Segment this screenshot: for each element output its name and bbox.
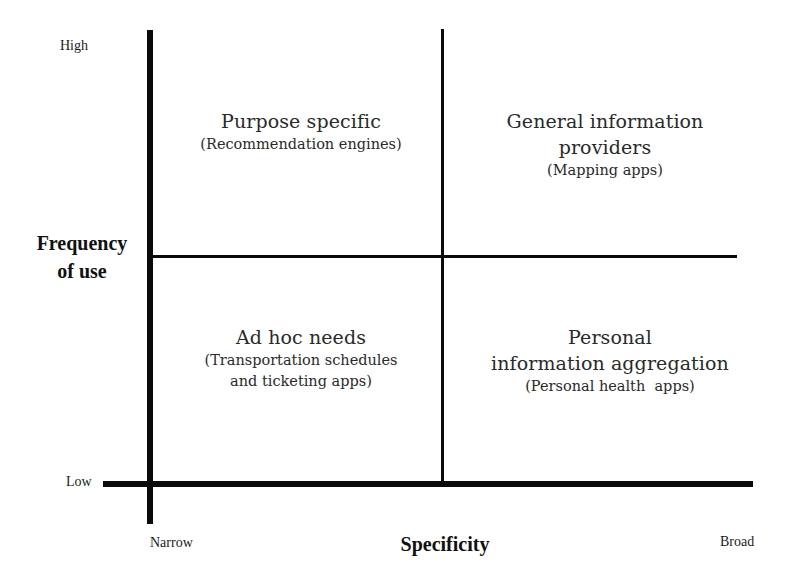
y-axis-title-line1: Frequency: [22, 229, 142, 257]
quadrant-top-right-example: (Mapping apps): [460, 160, 750, 181]
quadrant-bottom-right: Personal information aggregation (Person…: [465, 324, 755, 397]
quadrant-top-left: Purpose specific (Recommendation engines…: [176, 108, 426, 155]
quadrant-bottom-left-example-line1: (Transportation schedules: [176, 350, 426, 371]
y-axis-low-label: Low: [66, 474, 92, 490]
y-axis-title-line2: of use: [22, 257, 142, 285]
quadrant-bottom-left: Ad hoc needs (Transportation schedules a…: [176, 324, 426, 392]
y-axis-high-label: High: [60, 38, 88, 54]
x-axis-broad-label: Broad: [720, 534, 754, 550]
quadrant-top-left-title: Purpose specific: [176, 108, 426, 134]
quadrant-bottom-left-example-line2: and ticketing apps): [176, 371, 426, 392]
quadrant-top-right: General information providers (Mapping a…: [460, 108, 750, 181]
x-axis-narrow-label: Narrow: [150, 535, 193, 551]
quadrant-bottom-left-title: Ad hoc needs: [176, 324, 426, 350]
x-axis-line: [103, 481, 753, 487]
quadrant-bottom-right-example: (Personal health apps): [465, 376, 755, 397]
quadrant-bottom-right-title-line1: Personal: [465, 324, 755, 350]
quadrant-top-right-title-line1: General information: [460, 108, 750, 134]
horizontal-divider: [153, 255, 737, 258]
quadrant-bottom-right-title-line2: information aggregation: [465, 350, 755, 376]
y-axis-title: Frequency of use: [22, 229, 142, 285]
y-axis-line: [147, 30, 153, 524]
quadrant-top-right-title-line2: providers: [460, 134, 750, 160]
x-axis-title: Specificity: [380, 530, 510, 558]
quadrant-top-left-example: (Recommendation engines): [176, 134, 426, 155]
